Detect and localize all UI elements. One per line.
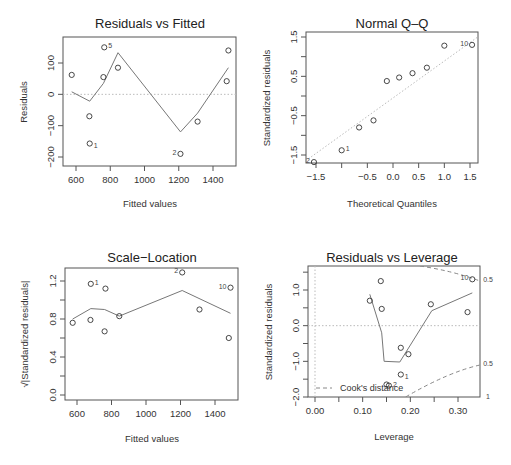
x-axis-label: Leverage xyxy=(374,431,414,442)
plot-frame xyxy=(306,32,478,163)
smoother-line xyxy=(72,53,229,132)
x-tick-label: 0.5 xyxy=(412,171,425,182)
point-label: 2 xyxy=(306,157,310,164)
data-point xyxy=(442,43,447,48)
y-tick-label: −200 xyxy=(45,146,56,167)
y-tick-label: −2.0 xyxy=(290,388,301,407)
point-label: 1 xyxy=(95,279,99,286)
x-tick-label: 1000 xyxy=(135,408,156,419)
x-tick-label: 1400 xyxy=(202,174,223,185)
data-point xyxy=(397,75,402,80)
y-axis-label: Residuals xyxy=(18,81,29,123)
x-tick-label: 0.00 xyxy=(306,405,325,416)
data-point xyxy=(371,118,376,123)
x-tick-label: 1.0 xyxy=(438,171,451,182)
x-tick-label: −1.5 xyxy=(307,171,326,182)
data-point xyxy=(226,48,231,53)
data-point xyxy=(384,78,389,83)
cooks-level-label: 0.5 xyxy=(483,360,493,367)
data-point xyxy=(102,329,107,334)
point-label: 10 xyxy=(460,40,468,47)
plot-frame xyxy=(63,37,236,166)
data-point xyxy=(195,119,200,124)
cooks-level-label: 1 xyxy=(486,393,490,400)
data-point xyxy=(70,320,75,325)
y-tick-label: 0.0 xyxy=(47,388,58,401)
x-tick-label: 0.30 xyxy=(449,405,468,416)
x-tick-label: 800 xyxy=(102,174,118,185)
point-label: 2 xyxy=(174,267,178,274)
smoother-line xyxy=(73,291,231,320)
smoother-line xyxy=(370,293,473,362)
data-point xyxy=(379,306,384,311)
y-tick-label: −1.5 xyxy=(288,146,299,165)
point-label: 1 xyxy=(405,373,409,380)
panel-normal-qq: Normal Q–Q Theoretical Quantiles Standar… xyxy=(261,16,478,209)
diagnostic-plots: Residuals vs Fitted Fitted values Residu… xyxy=(0,0,511,465)
panel-title: Scale−Location xyxy=(107,250,196,265)
data-point xyxy=(180,270,185,275)
data-point xyxy=(228,285,233,290)
data-point xyxy=(311,159,316,164)
y-axis-label: √|Standardized residuals| xyxy=(19,281,30,388)
y-tick-label: 0 xyxy=(45,92,56,97)
data-point xyxy=(115,65,120,70)
data-point xyxy=(87,141,92,146)
data-point xyxy=(470,277,475,282)
cooks-level-label: 0.5 xyxy=(483,276,493,283)
y-tick-label: 0.5 xyxy=(288,70,299,83)
plot-frame xyxy=(308,266,480,397)
data-point xyxy=(102,45,107,50)
x-axis-label: Fitted values xyxy=(125,433,179,444)
point-label: 5 xyxy=(108,42,112,49)
data-point xyxy=(226,335,231,340)
panel-residuals-vs-fitted: Residuals vs Fitted Fitted values Residu… xyxy=(18,16,236,209)
data-point xyxy=(465,310,470,315)
cooks-distance-curve xyxy=(406,365,480,397)
cooks-distance-curve xyxy=(420,266,480,281)
point-label: 2 xyxy=(173,149,177,156)
x-tick-label: 800 xyxy=(104,408,120,419)
data-point xyxy=(88,317,93,322)
point-label: 1 xyxy=(94,142,98,149)
x-tick-label: 600 xyxy=(69,408,85,419)
panel-title: Normal Q–Q xyxy=(356,16,429,31)
panel-residuals-vs-leverage: Residuals vs Leverage Leverage Standardi… xyxy=(263,250,493,442)
data-point xyxy=(357,125,362,130)
y-tick-label: 1.0 xyxy=(290,283,301,296)
point-label: 10 xyxy=(461,274,469,281)
x-tick-label: 0.0 xyxy=(386,171,399,182)
x-tick-label: 600 xyxy=(68,174,84,185)
point-label: 10 xyxy=(219,283,227,290)
y-axis-label: Standardized residuals xyxy=(261,49,272,146)
data-point xyxy=(410,71,415,76)
data-point xyxy=(103,286,108,291)
data-point xyxy=(178,151,183,156)
point-label: 1 xyxy=(346,145,350,152)
x-tick-label: 1200 xyxy=(168,174,189,185)
y-tick-label: 100 xyxy=(45,55,56,71)
y-tick-label: −100 xyxy=(45,115,56,136)
x-tick-label: 0.10 xyxy=(353,405,372,416)
data-point xyxy=(378,278,383,283)
data-point xyxy=(424,65,429,70)
x-tick-label: 1400 xyxy=(204,408,225,419)
x-tick-label: 0.20 xyxy=(401,405,420,416)
data-point xyxy=(406,352,411,357)
x-tick-label: −0.5 xyxy=(358,171,377,182)
x-axis-label: Theoretical Quantiles xyxy=(347,198,437,209)
y-tick-label: 0.4 xyxy=(47,350,58,363)
plot-frame xyxy=(65,268,238,400)
data-point xyxy=(101,75,106,80)
y-axis-label: Standardized residuals xyxy=(263,283,274,380)
data-point xyxy=(224,79,229,84)
y-tick-label: 1.5 xyxy=(288,30,299,43)
x-tick-label: 1.5 xyxy=(463,171,476,182)
panel-scale-location: Scale−Location Fitted values √|Standardi… xyxy=(19,250,238,444)
data-point xyxy=(88,281,93,286)
y-tick-label: 0.0 xyxy=(290,319,301,332)
data-point xyxy=(87,114,92,119)
point-label: 2 xyxy=(393,381,397,388)
y-tick-label: −1.0 xyxy=(290,352,301,371)
y-tick-label: 1.2 xyxy=(47,274,58,287)
